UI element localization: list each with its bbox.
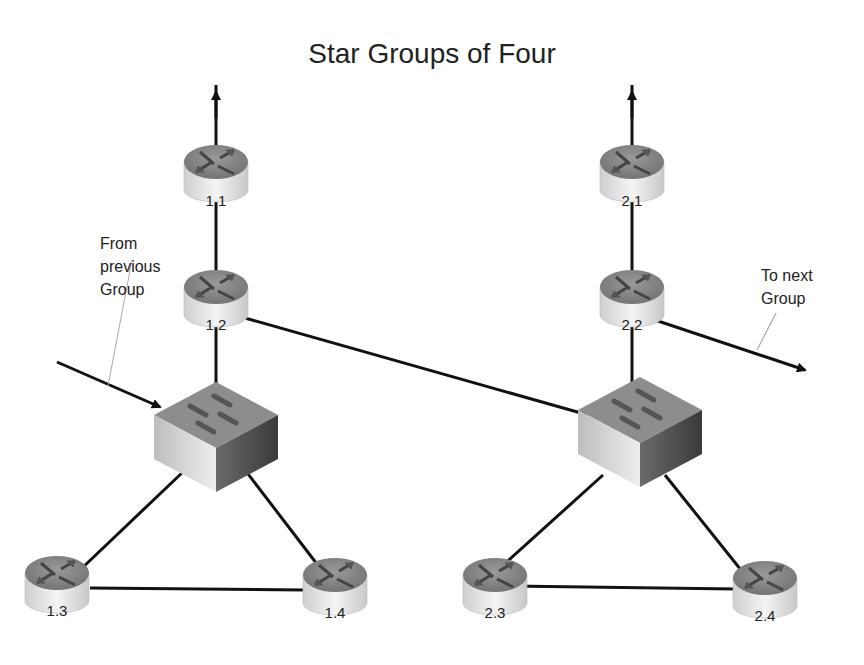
network-diagram: 1.1 1.2 1.3 1.4 2.1 2.2 2.3 2.4 [0,0,864,665]
svg-text:1.3: 1.3 [47,602,68,619]
switch-group-2 [578,377,702,487]
svg-text:1.2: 1.2 [206,316,227,333]
svg-text:2.1: 2.1 [622,192,643,209]
switch-group-1 [154,382,278,492]
svg-text:2.2: 2.2 [622,316,643,333]
router-2-1: 2.1 [600,145,664,209]
svg-text:2.3: 2.3 [485,604,506,621]
router-2-4: 2.4 [733,561,797,624]
svg-text:2.4: 2.4 [755,607,776,624]
router-1-2: 1.2 [184,270,248,333]
router-1-3: 1.3 [25,556,89,619]
label-line: Group [761,287,813,310]
router-2-3: 2.3 [463,558,527,621]
label-line: To next [761,264,813,287]
label-line: Group [100,278,160,301]
from-previous-group-label: From previous Group [100,232,160,301]
router-1-4: 1.4 [303,558,367,621]
group-1-links [80,85,588,590]
label-line: previous [100,255,160,278]
svg-text:1.4: 1.4 [325,604,346,621]
svg-text:1.1: 1.1 [206,192,227,209]
outbound-arrow [655,320,805,370]
label-line: From [100,232,160,255]
router-2-2: 2.2 [600,270,664,333]
to-next-group-label: To next Group [761,264,813,310]
router-1-1: 1.1 [184,145,248,209]
